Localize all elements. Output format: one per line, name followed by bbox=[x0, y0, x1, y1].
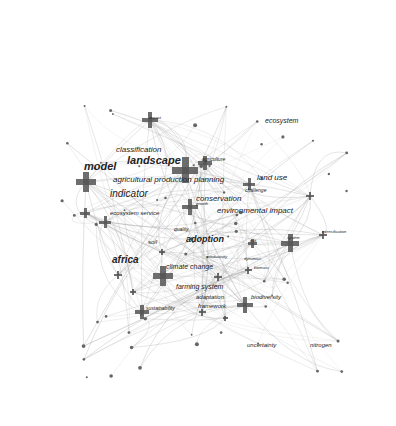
node-label: landscape bbox=[127, 155, 181, 166]
node-cross-icon bbox=[159, 249, 165, 255]
node-label: environmental impact bbox=[217, 207, 293, 215]
node-label: climate change bbox=[166, 263, 213, 270]
node-label: challenge bbox=[245, 188, 266, 193]
node-label: adaptation bbox=[196, 294, 224, 300]
node-label: uncertainty bbox=[247, 342, 276, 348]
node-cross-icon bbox=[114, 271, 122, 279]
node-cross-icon bbox=[223, 316, 228, 321]
node-cross-icon bbox=[306, 192, 314, 200]
node-cross-icon bbox=[245, 267, 252, 274]
node-label: ecosystem bbox=[265, 117, 298, 124]
network-edges bbox=[0, 0, 396, 426]
node-label: soil bbox=[148, 239, 157, 245]
node-label: land use bbox=[257, 174, 287, 182]
node-label: quality bbox=[174, 227, 188, 232]
node-label: impact bbox=[149, 116, 161, 120]
node-label: dynamics bbox=[244, 257, 261, 261]
node-label: productivity bbox=[207, 255, 227, 259]
node-label: sustainability bbox=[146, 306, 175, 311]
node-cross-icon bbox=[80, 208, 90, 218]
node-cross-icon bbox=[214, 273, 222, 281]
node-cross-icon bbox=[199, 309, 206, 316]
node-label: model bbox=[84, 161, 116, 172]
node-cross-icon bbox=[130, 289, 136, 295]
node-label: africa bbox=[112, 255, 139, 265]
node-label: nitrogen bbox=[310, 342, 332, 348]
node-label: risk bbox=[250, 239, 256, 243]
node-label: framework bbox=[198, 303, 226, 309]
node-cross-icon bbox=[76, 172, 96, 192]
node-label: farming system bbox=[176, 283, 223, 290]
node-label: biodiversity bbox=[251, 294, 281, 300]
node-label: growth bbox=[196, 202, 208, 206]
node-label: agricultural production planning bbox=[113, 176, 224, 184]
node-label: system bbox=[287, 236, 300, 240]
node-cross-icon bbox=[99, 216, 111, 228]
node-label: intensification bbox=[322, 230, 346, 234]
node-label: biomass bbox=[254, 266, 269, 270]
node-label: indicator bbox=[110, 189, 148, 199]
node-label: classification bbox=[116, 146, 161, 154]
node-label: ecosystem service bbox=[110, 210, 159, 216]
network-diagram: modellandscapeclassificationagricultural… bbox=[0, 0, 396, 426]
node-label: agriculture bbox=[202, 157, 225, 162]
node-label: adoption bbox=[186, 235, 224, 244]
